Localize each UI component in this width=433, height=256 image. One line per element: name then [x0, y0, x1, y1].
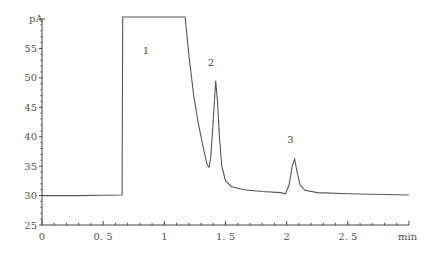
x-axis: 00. 511. 522. 5 — [39, 221, 409, 242]
peak-label-2: 2 — [208, 57, 214, 68]
y-tick-label: 55 — [24, 43, 37, 54]
x-tick-label: 2 — [283, 231, 289, 242]
x-tick-label: 0 — [39, 231, 45, 242]
peak-label-3: 3 — [287, 134, 293, 145]
y-tick-label: 25 — [24, 220, 37, 231]
x-tick-label: 1. 5 — [216, 231, 235, 242]
y-tick-label: 45 — [24, 102, 37, 113]
chromatogram-trace — [42, 17, 409, 196]
x-axis-unit-label: min — [398, 231, 418, 242]
x-tick-label: 0. 5 — [94, 231, 113, 242]
chromatogram-chart: 25303540455055 00. 511. 522. 5 123 pA mi… — [0, 0, 433, 256]
y-tick-label: 35 — [24, 161, 37, 172]
y-tick-label: 30 — [24, 190, 37, 201]
y-tick-label: 40 — [24, 131, 37, 142]
y-tick-label: 50 — [24, 72, 37, 83]
x-tick-label: 2. 5 — [338, 231, 357, 242]
peak-labels: 123 — [143, 45, 294, 144]
y-axis: 25303540455055 — [24, 19, 45, 231]
y-axis-unit-label: pA — [29, 13, 43, 24]
x-tick-label: 1 — [161, 231, 167, 242]
peak-label-1: 1 — [143, 45, 149, 56]
